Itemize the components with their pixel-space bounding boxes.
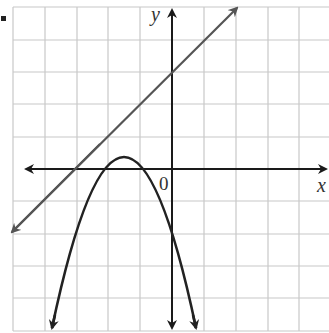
origin-label: 0 [159,174,169,193]
parabola [52,157,196,328]
line-lower-arrow [12,144,100,232]
coordinate-graph [0,0,329,333]
x-axis-label: x [317,175,326,195]
y-axis-label: y [151,4,160,24]
